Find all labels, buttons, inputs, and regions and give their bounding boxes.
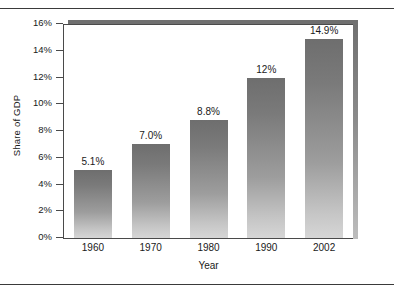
bar-value-label: 7.0%: [139, 130, 162, 141]
bar-item: 8.8%: [190, 24, 228, 238]
bar-rect: [74, 170, 112, 238]
bar-item: 5.1%: [74, 24, 112, 238]
bar-rect: [190, 120, 228, 238]
x-tick-label: 1980: [197, 242, 219, 253]
x-axis-title: Year: [64, 260, 353, 271]
x-axis-ticks: 19601970198019902002: [64, 242, 353, 256]
y-tick-label: 2%: [38, 204, 52, 215]
bar-value-label: 12%: [256, 64, 276, 75]
plot-shadow-right: [353, 20, 358, 239]
y-tick-label: 4%: [38, 178, 52, 189]
bar-value-label: 8.8%: [197, 106, 220, 117]
y-tick-label: 16%: [33, 17, 52, 28]
bottom-divider-rule: [0, 284, 394, 285]
bar-rect: [132, 144, 170, 238]
bar-item: 12%: [247, 24, 285, 238]
y-tick-mark: [56, 130, 63, 131]
y-tick-label: 8%: [38, 124, 52, 135]
y-tick-mark: [56, 237, 63, 238]
y-tick-label: 12%: [33, 71, 52, 82]
y-tick-mark: [56, 184, 63, 185]
chart-plot-container: Share of GDP 0%2%4%6%8%10%12%14%16% 5.1%…: [0, 14, 394, 280]
bar-value-label: 5.1%: [81, 156, 104, 167]
bar-rect: [247, 78, 285, 239]
y-tick-mark: [56, 50, 63, 51]
bar-value-label: 14.9%: [310, 25, 338, 36]
bar-rect: [305, 39, 343, 238]
x-tick-label: 1970: [140, 242, 162, 253]
y-tick-mark: [56, 23, 63, 24]
y-tick-mark: [56, 210, 63, 211]
y-tick-label: 10%: [33, 97, 52, 108]
x-tick-label: 1990: [255, 242, 277, 253]
x-tick-label: 2002: [313, 242, 335, 253]
y-tick-label: 14%: [33, 44, 52, 55]
bar-item: 14.9%: [305, 24, 343, 238]
y-tick-mark: [56, 103, 63, 104]
y-tick-label: 6%: [38, 151, 52, 162]
x-tick-label: 1960: [82, 242, 104, 253]
bar-chart-figure: Share of GDP 0%2%4%6%8%10%12%14%16% 5.1%…: [0, 0, 394, 296]
y-axis-ticks: 0%2%4%6%8%10%12%14%16%: [0, 24, 63, 239]
top-divider-rule: [0, 8, 394, 9]
y-tick-mark: [56, 77, 63, 78]
y-tick-label: 0%: [38, 231, 52, 242]
bar-item: 7.0%: [132, 24, 170, 238]
y-tick-mark: [56, 157, 63, 158]
bar-series: 5.1%7.0%8.8%12%14.9%: [64, 24, 353, 238]
